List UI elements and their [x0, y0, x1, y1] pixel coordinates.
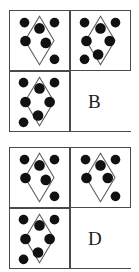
- dot: [20, 234, 31, 245]
- dot: [20, 155, 30, 165]
- dot: [20, 173, 31, 184]
- option-label-d: D: [88, 229, 102, 248]
- dot: [102, 173, 113, 184]
- dot: [50, 55, 60, 65]
- answer-option-d[interactable]: D: [9, 147, 133, 272]
- dot: [34, 220, 45, 231]
- dot: [111, 155, 121, 165]
- option-label-cell-b[interactable]: B: [70, 71, 131, 132]
- diamond-dot-figure: [71, 11, 130, 70]
- pattern-cell-bottom-left[interactable]: [9, 208, 70, 269]
- dot: [81, 155, 91, 165]
- diamond-dot-figure: [10, 72, 69, 131]
- puzzle-options-stage: B: [0, 0, 139, 272]
- answer-option-b[interactable]: B: [9, 10, 133, 133]
- diamond-dot-figure: [10, 148, 69, 207]
- dot: [95, 160, 106, 171]
- dot: [50, 155, 60, 165]
- dot: [50, 215, 60, 225]
- diamond-dot-figure: [10, 209, 69, 268]
- pattern-cell-bottom-left[interactable]: [9, 71, 70, 132]
- dot: [19, 117, 29, 127]
- dot: [44, 97, 55, 108]
- dot: [34, 23, 45, 34]
- dot: [40, 175, 51, 186]
- grid-row: [9, 10, 133, 71]
- dot: [95, 23, 106, 34]
- dot: [111, 192, 121, 202]
- dot: [33, 247, 44, 258]
- dot: [80, 18, 90, 28]
- dot: [50, 18, 60, 28]
- option-label-cell-d[interactable]: D: [70, 208, 131, 269]
- dot: [34, 83, 45, 94]
- dot: [20, 18, 30, 28]
- dot: [50, 78, 60, 88]
- dot: [40, 38, 51, 49]
- pattern-cell-top-left[interactable]: [9, 10, 70, 71]
- dot: [20, 36, 31, 47]
- pattern-cell-top-right[interactable]: [70, 10, 131, 71]
- grid-row: B: [9, 71, 133, 132]
- pattern-cell-top-right[interactable]: [70, 147, 131, 208]
- dot: [50, 192, 60, 202]
- dot: [19, 254, 29, 264]
- grid-row: [9, 147, 133, 208]
- diamond-dot-figure: [10, 11, 69, 70]
- dot: [19, 215, 29, 225]
- dot: [44, 234, 55, 245]
- dot: [81, 173, 92, 184]
- dot: [81, 36, 92, 47]
- dot: [33, 110, 44, 121]
- dot: [111, 18, 121, 28]
- grid-row: D: [9, 208, 133, 269]
- pattern-cell-top-left[interactable]: [9, 147, 70, 208]
- dot: [80, 55, 90, 65]
- dot: [104, 36, 115, 47]
- dot: [34, 160, 45, 171]
- diamond-dot-figure: [71, 148, 130, 207]
- dot: [19, 78, 29, 88]
- dot: [20, 97, 31, 108]
- option-label-b: B: [88, 92, 101, 111]
- dot: [93, 49, 104, 60]
